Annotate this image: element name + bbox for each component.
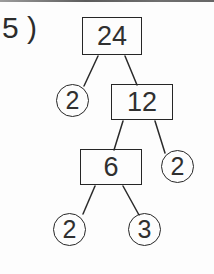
connector-line-6-to-3-bottom <box>123 186 139 215</box>
connector-line-12-to-6 <box>114 121 123 150</box>
tree-node-24: 24 <box>82 17 142 55</box>
connector-line-12-to-2-right <box>155 121 165 153</box>
tree-node-prime-2-right: 2 <box>161 150 194 183</box>
tree-node-prime-3-bottom: 3 <box>128 213 161 246</box>
connector-line-24-to-12 <box>125 56 137 85</box>
worksheet-problem-cell: 5 ) 24 2 12 6 2 2 3 <box>0 0 214 274</box>
connector-line-24-to-2-left <box>84 56 98 86</box>
tree-node-6: 6 <box>80 149 142 185</box>
tree-node-prime-2-bottom: 2 <box>53 213 86 246</box>
tree-node-12: 12 <box>111 84 173 120</box>
connector-line-6-to-2-bottom <box>83 186 95 214</box>
tree-node-prime-2-left: 2 <box>56 84 89 117</box>
